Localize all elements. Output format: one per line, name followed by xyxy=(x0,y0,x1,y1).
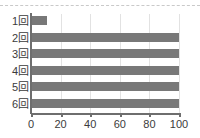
bar-row-6 xyxy=(31,99,179,108)
y-tick-label-2: 2回 xyxy=(1,33,29,44)
y-tick-label-4: 4回 xyxy=(1,66,29,77)
x-tick-label-100: 100 xyxy=(170,118,188,130)
x-tick-label-80: 80 xyxy=(143,118,155,130)
y-tick-label-5: 5回 xyxy=(1,82,29,93)
bar-row-4 xyxy=(31,66,179,75)
y-tick-label-1: 1回 xyxy=(1,16,29,27)
x-tick-label-60: 60 xyxy=(114,118,126,130)
y-tick-label-3: 3回 xyxy=(1,49,29,60)
bar-row-3 xyxy=(31,49,179,58)
x-axis-line xyxy=(31,113,180,115)
x-tick-20 xyxy=(61,113,63,117)
top-divider xyxy=(0,5,200,6)
bar-chart: 1回 2回 3回 4回 5回 6回 0 20 40 60 80 100 xyxy=(0,0,200,138)
bar-row-2 xyxy=(31,33,179,42)
plot-area xyxy=(31,14,179,113)
x-tick-60 xyxy=(120,113,122,117)
bar-row-5 xyxy=(31,82,179,91)
x-tick-40 xyxy=(90,113,92,117)
y-tick-label-6: 6回 xyxy=(1,99,29,110)
x-tick-label-20: 20 xyxy=(54,118,66,130)
x-tick-0 xyxy=(31,113,33,117)
y-axis-labels: 1回 2回 3回 4回 5回 6回 xyxy=(0,0,29,138)
x-tick-label-40: 40 xyxy=(84,118,96,130)
gridline-100 xyxy=(179,14,180,113)
x-tick-80 xyxy=(149,113,151,117)
x-tick-100 xyxy=(179,113,181,117)
bar-row-1 xyxy=(31,16,47,25)
y-axis-line xyxy=(30,13,32,114)
x-tick-label-0: 0 xyxy=(28,118,34,130)
